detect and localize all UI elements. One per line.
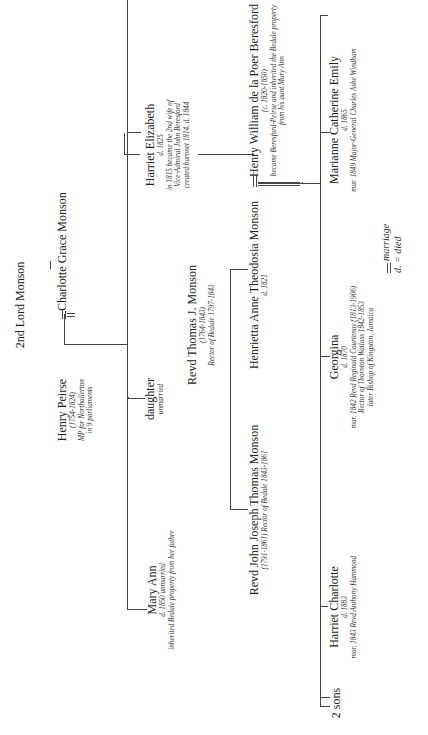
person-note: (1764-1843) bbox=[199, 255, 208, 395]
person-note: became Beresford-Peirse and inherited th… bbox=[270, 4, 279, 177]
person-note: d. 1865 bbox=[341, 20, 350, 220]
person-note: later Bishop of Kingston, Jamaica bbox=[367, 257, 376, 457]
descent-line bbox=[124, 133, 125, 155]
person-note: d. 1821 bbox=[261, 185, 270, 385]
node-henry-peirse: Henry Peirse (1754-1824) MP for Northall… bbox=[56, 360, 95, 460]
siblings-bar bbox=[127, 0, 128, 610]
person-note: mar. 1849 Major-General Charles Ashe Win… bbox=[350, 20, 359, 220]
node-henrietta: Henrietta Anne Theodosia Monson d. 1821 bbox=[248, 185, 270, 385]
node-harriet-charlotte: Harriet Charlotte d. 1883 mar. 1843 Revd… bbox=[328, 517, 358, 697]
person-note: (1791-1861) Rector of Bedale 1843-1861 bbox=[261, 400, 270, 620]
node-georgina: Georgina d. 1870 mar. 1842 Revd Reginald… bbox=[328, 257, 375, 457]
person-name: Revd John Joseph Thomas Monson bbox=[248, 400, 261, 620]
person-name: Revd Thomas J. Monson bbox=[186, 255, 199, 395]
person-name: Georgina bbox=[328, 257, 341, 457]
person-note: Vice-Admiral John Beresford bbox=[174, 80, 183, 210]
descent-line bbox=[127, 132, 141, 133]
person-note: (1754-1824) bbox=[69, 360, 78, 460]
person-note: inherited Bedale property from her fathe… bbox=[168, 510, 177, 670]
node-henry-william: Henry William de la Poer Beresford (c. 1… bbox=[248, 4, 287, 177]
marriage-descent bbox=[67, 313, 75, 317]
person-name: Harriet Elizabeth bbox=[144, 80, 157, 210]
person-name: Mary Ann bbox=[146, 510, 159, 670]
descent-line bbox=[198, 154, 254, 155]
person-note: (c. 1820-1850) bbox=[261, 4, 270, 177]
person-note: in 9 parliaments bbox=[86, 360, 95, 460]
person-note: from his aunt Mary Ann bbox=[278, 4, 287, 177]
descent-line bbox=[258, 183, 320, 184]
legend-marriage-symbol bbox=[387, 263, 391, 273]
node-mary-ann: Mary Ann d. 1850 unmarried inherited Bed… bbox=[146, 510, 176, 670]
descent-line bbox=[64, 315, 65, 345]
legend: marriage d. = died bbox=[382, 213, 403, 273]
person-name: 2nd Lord Monson bbox=[14, 255, 27, 355]
descent-line bbox=[64, 344, 127, 345]
person-name: Henry Peirse bbox=[56, 360, 69, 460]
siblings-bar bbox=[230, 270, 231, 510]
person-note: in 1815 became the 2nd wife of bbox=[166, 80, 175, 210]
person-name: Charlotte Grace Monson bbox=[56, 192, 69, 311]
node-lord-monson: 2nd Lord Monson bbox=[14, 255, 27, 355]
person-note: d. 1850 unmarried bbox=[159, 510, 168, 670]
descent-line bbox=[124, 154, 140, 155]
descent-line bbox=[230, 269, 248, 270]
descent-line bbox=[50, 261, 51, 269]
person-name: Henry William de la Poer Beresford bbox=[248, 4, 261, 177]
person-note: Rector of Bedale 1797-1843 bbox=[208, 255, 217, 395]
person-name: Harriet Charlotte bbox=[328, 517, 341, 697]
person-name: daughter bbox=[144, 369, 157, 429]
descent-line bbox=[320, 15, 321, 133]
person-note: Rector of Thornton Watlass 1842-1853 bbox=[358, 257, 367, 457]
person-note: unmarried bbox=[157, 369, 166, 429]
node-harriet-elizabeth: Harriet Elizabeth d. 1825 in 1815 became… bbox=[144, 80, 191, 210]
descent-line bbox=[127, 609, 147, 610]
node-revd-john: Revd John Joseph Thomas Monson (1791-186… bbox=[248, 400, 270, 620]
person-name: Henrietta Anne Theodosia Monson bbox=[248, 185, 261, 385]
person-note: MP for Northallerton bbox=[78, 360, 87, 460]
node-daughter: daughter unmarried bbox=[144, 369, 166, 429]
family-tree-diagram: 2nd Lord Monson Henry Peirse (1754-1824)… bbox=[0, 0, 428, 735]
siblings-bar bbox=[320, 132, 321, 707]
node-marianne: Marianne Catherine Emily d. 1865 mar. 18… bbox=[328, 20, 358, 220]
person-note: d. 1825 bbox=[157, 80, 166, 210]
legend-died-label: d. = died bbox=[394, 213, 403, 273]
person-note: d. 1870 bbox=[341, 257, 350, 457]
person-note: d. 1883 bbox=[341, 517, 350, 697]
person-note: mar. 1842 Revd Reginald Courtenay (1813-… bbox=[350, 257, 359, 457]
legend-marriage-label: marriage bbox=[382, 224, 391, 261]
descent-line bbox=[230, 509, 248, 510]
node-charlotte: Charlotte Grace Monson bbox=[56, 192, 69, 311]
node-revd-thomas: Revd Thomas J. Monson (1764-1843) Rector… bbox=[186, 255, 216, 395]
person-note: mar. 1843 Revd Anthony Hammond bbox=[350, 517, 359, 697]
marriage-symbol bbox=[253, 176, 257, 187]
descent-line bbox=[320, 15, 328, 16]
person-note: created baronet 1814, d. 1844 bbox=[183, 80, 192, 210]
person-name: Marianne Catherine Emily bbox=[328, 20, 341, 220]
